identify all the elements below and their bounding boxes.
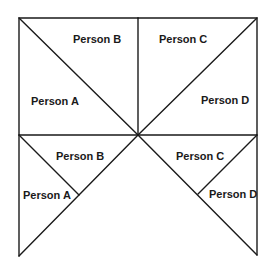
label-top-right-person-c: Person C — [159, 33, 207, 45]
label-top-left-person-b: Person B — [73, 33, 121, 45]
label-bottom-left-person-b: Person B — [56, 150, 104, 162]
top-left-square: Person B Person A — [19, 18, 138, 135]
bottom-right-triangle: Person C Person D — [138, 135, 257, 255]
bottom-right-split-line — [198, 135, 257, 194]
label-bottom-left-person-a: Person A — [23, 189, 71, 201]
bottom-left-triangle: Person B Person A — [19, 135, 138, 256]
label-bottom-right-person-d: Person D — [209, 188, 257, 200]
label-top-left-person-a: Person A — [31, 95, 79, 107]
top-right-square: Person C Person D — [138, 18, 257, 135]
label-top-right-person-d: Person D — [201, 94, 249, 106]
bottom-left-split-line — [19, 135, 79, 195]
division-diagram: Person B Person A Person C Person D Pers… — [0, 0, 272, 272]
label-bottom-right-person-c: Person C — [176, 150, 224, 162]
